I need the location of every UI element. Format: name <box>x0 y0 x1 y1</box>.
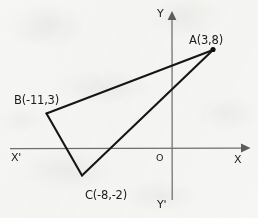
x-axis-label: X <box>234 153 242 166</box>
vertex-label-a: A(3,8) <box>189 33 223 47</box>
x-axis-arrow-icon <box>241 144 251 153</box>
triangle-edge-ca <box>82 50 213 176</box>
y-axis-negative-label: Y' <box>156 198 166 211</box>
x-axis-negative-label: X' <box>11 151 21 164</box>
coordinate-geometry-figure: A(3,8) B(-11,3) C(-8,-2) X' X Y Y' O <box>0 0 258 218</box>
triangle-abc-group <box>47 47 216 176</box>
y-axis-label: Y <box>156 7 164 20</box>
x-axis-line <box>10 148 241 149</box>
vertex-marker-a <box>210 47 215 52</box>
triangle-edge-bc <box>47 114 83 176</box>
y-axis-arrow-icon <box>168 11 177 20</box>
origin-label: O <box>156 152 163 163</box>
vertex-label-b: B(-11,3) <box>14 93 59 107</box>
triangle-edge-ab <box>47 50 214 114</box>
figure-canvas: A(3,8) B(-11,3) C(-8,-2) X' X Y Y' O <box>0 0 258 218</box>
vertex-label-c: C(-8,-2) <box>85 188 127 202</box>
